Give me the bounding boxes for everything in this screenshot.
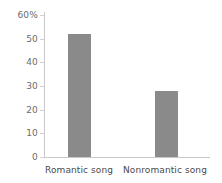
y-axis-tick-mark: [40, 110, 44, 111]
y-axis-tick-label: 30: [0, 81, 38, 91]
y-axis-tick-mark: [40, 15, 44, 16]
y-axis-line: [44, 12, 45, 158]
y-axis-tick-label-text: 10: [2, 128, 38, 138]
y-axis-tick-label-text: 30: [2, 81, 38, 91]
y-axis-tick-label-text: 0: [2, 152, 38, 162]
y-axis-tick-label-text: 20: [2, 105, 38, 115]
y-axis-tick-label-text: 50: [2, 34, 38, 44]
bar-chart: 0102030405060% Romantic song Nonromantic…: [0, 0, 222, 183]
y-axis-tick-label: 50: [0, 34, 38, 44]
y-axis-tick-mark: [40, 39, 44, 40]
y-axis-tick-label: 20: [0, 105, 38, 115]
y-axis-tick-label: 10: [0, 128, 38, 138]
y-axis-tick-label: 40: [0, 57, 38, 67]
y-axis-tick-mark: [40, 133, 44, 134]
y-axis-tick-label-text: 40: [2, 57, 38, 67]
y-axis-tick-label-text: 60%: [2, 10, 38, 20]
x-axis-line: [44, 157, 210, 158]
y-axis-tick-mark: [40, 157, 44, 158]
bar-nonromantic-song: [155, 91, 178, 157]
x-axis-label-nonromantic-song: Nonromantic song: [108, 165, 222, 176]
bar-romantic-song: [68, 34, 91, 157]
y-axis-tick-mark: [40, 62, 44, 63]
y-axis-tick-mark: [40, 86, 44, 87]
y-axis-tick-label: 0: [0, 152, 38, 162]
y-axis-tick-label: 60%: [0, 10, 38, 20]
